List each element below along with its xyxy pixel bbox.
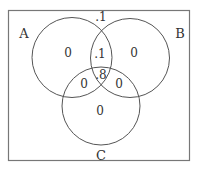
set-label-b: B <box>175 26 185 41</box>
region-ac-value: 0 <box>80 77 88 91</box>
region-ab-value: .1 <box>94 47 105 61</box>
region-a-only-value: 0 <box>64 46 72 60</box>
set-label-c: C <box>96 148 106 163</box>
set-label-a: A <box>18 26 29 41</box>
venn-diagram: A B C .1 0 .1 0 .8 0 0 0 <box>0 0 197 172</box>
region-abc-value: .8 <box>95 68 106 82</box>
region-c-only-value: 0 <box>96 104 104 118</box>
region-outside-value: .1 <box>95 10 106 24</box>
region-bc-value: 0 <box>115 77 123 91</box>
region-b-only-value: 0 <box>130 46 138 60</box>
